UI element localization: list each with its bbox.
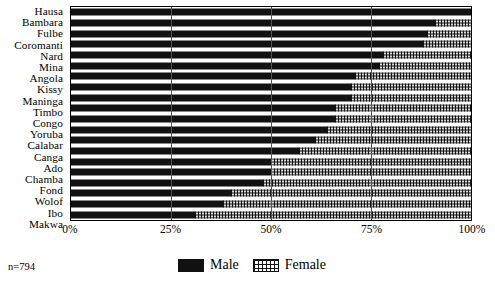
bar-segment-male [71,126,327,133]
bar-track [71,94,471,101]
bar-segment-female [271,169,471,176]
bar-series-container [71,7,471,220]
bar-track [71,211,471,218]
bar-track [71,115,471,122]
category-label: Calabar [0,140,66,151]
bar-segment-female [351,83,471,90]
sample-size-annotation: n=794 [8,262,35,273]
bar-segment-male [71,73,355,80]
category-label: Wolof [0,196,66,207]
bar-segment-male [71,137,315,144]
bar-segment-female [379,62,471,69]
bar-segment-male [71,41,423,48]
bar-segment-male [71,169,271,176]
bar-segment-male [71,190,231,197]
bar-segment-female [315,137,471,144]
bar-segment-male [71,179,263,186]
bar-segment-female [423,41,471,48]
bar-track [71,30,471,37]
bar-row [71,28,471,39]
legend-label: Female [285,258,326,272]
bar-segment-female [427,30,471,37]
bar-row [71,82,471,93]
plot-area [70,6,472,221]
bar-segment-male [71,115,335,122]
bar-segment-male [71,83,351,90]
bar-segment-female [263,179,471,186]
bar-track [71,73,471,80]
stacked-bar-chart: HausaBambaraFulbeCoromantiNardMinaAngola… [0,0,495,288]
bar-row [71,156,471,167]
bar-track [71,147,471,154]
bar-segment-male [71,105,335,112]
bar-track [71,190,471,197]
bar-track [71,126,471,133]
category-label: Makwa [0,219,66,230]
bar-track [71,201,471,208]
bar-segment-female [355,73,471,80]
bar-segment-male [71,94,351,101]
bar-track [71,41,471,48]
bar-track [71,9,471,16]
bar-segment-male [71,62,379,69]
bar-segment-female [351,94,471,101]
bar-track [71,105,471,112]
bar-row [71,135,471,146]
legend-label: Male [210,258,239,272]
category-label: Kissy [0,84,66,95]
bar-segment-male [71,51,383,58]
legend-swatch-male-icon [178,259,204,272]
x-tick-label: 100% [459,224,486,236]
x-tick-label: 75% [361,224,382,236]
bar-segment-female [327,126,471,133]
bar-segment-female [335,115,471,122]
bar-segment-male [71,30,427,37]
x-axis: 0%25%50%75%100% [70,224,472,242]
bar-row [71,124,471,135]
bar-segment-female [335,105,471,112]
bar-track [71,83,471,90]
bar-track [71,137,471,144]
bar-row [71,199,471,210]
bar-track [71,62,471,69]
bar-segment-male [71,211,195,218]
category-axis: HausaBambaraFulbeCoromantiNardMinaAngola… [0,6,66,221]
bar-row [71,39,471,50]
bar-segment-male [71,19,435,26]
bar-segment-female [435,19,471,26]
legend-swatch-female-icon [253,259,279,272]
legend: MaleFemale [178,258,326,272]
bar-row [71,209,471,220]
bar-track [71,19,471,26]
bar-row [71,114,471,125]
bar-segment-male [71,147,299,154]
chart-footer: n=794 MaleFemale [0,258,495,282]
bar-row [71,7,471,18]
bar-segment-male [71,158,271,165]
bar-segment-female [299,147,471,154]
legend-entry: Female [253,258,326,272]
bar-track [71,179,471,186]
x-tick-label: 50% [260,224,281,236]
bar-track [71,158,471,165]
bar-row [71,60,471,71]
bar-row [71,92,471,103]
category-label: Fulbe [0,28,66,39]
bar-row [71,178,471,189]
bar-row [71,71,471,82]
bar-segment-male [71,9,471,16]
bar-row [71,18,471,29]
bar-segment-male [71,201,223,208]
bar-segment-female [231,190,471,197]
bar-segment-female [383,51,471,58]
bar-track [71,169,471,176]
x-tick-label: 0% [62,224,77,236]
bar-row [71,103,471,114]
bar-segment-female [271,158,471,165]
bar-row [71,50,471,61]
bar-segment-female [223,201,471,208]
bar-track [71,51,471,58]
bar-row [71,146,471,157]
bar-row [71,167,471,178]
x-tick-label: 25% [160,224,181,236]
